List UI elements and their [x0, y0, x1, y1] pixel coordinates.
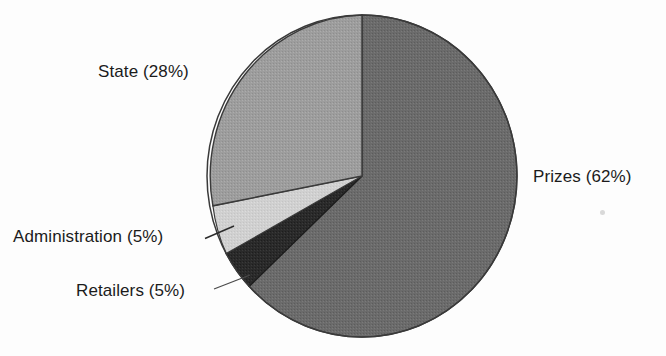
pie-label-retailers: Retailers (5%) [76, 282, 185, 299]
pie-label-administration: Administration (5%) [13, 228, 163, 245]
scan-artifact-speck [600, 210, 605, 215]
pie-chart-figure: State (28%) Prizes (62%) Administration … [0, 0, 666, 356]
pie-label-state: State (28%) [98, 63, 189, 80]
pie-slice-state[interactable] [210, 15, 362, 206]
pie-label-prizes: Prizes (62%) [533, 168, 632, 185]
